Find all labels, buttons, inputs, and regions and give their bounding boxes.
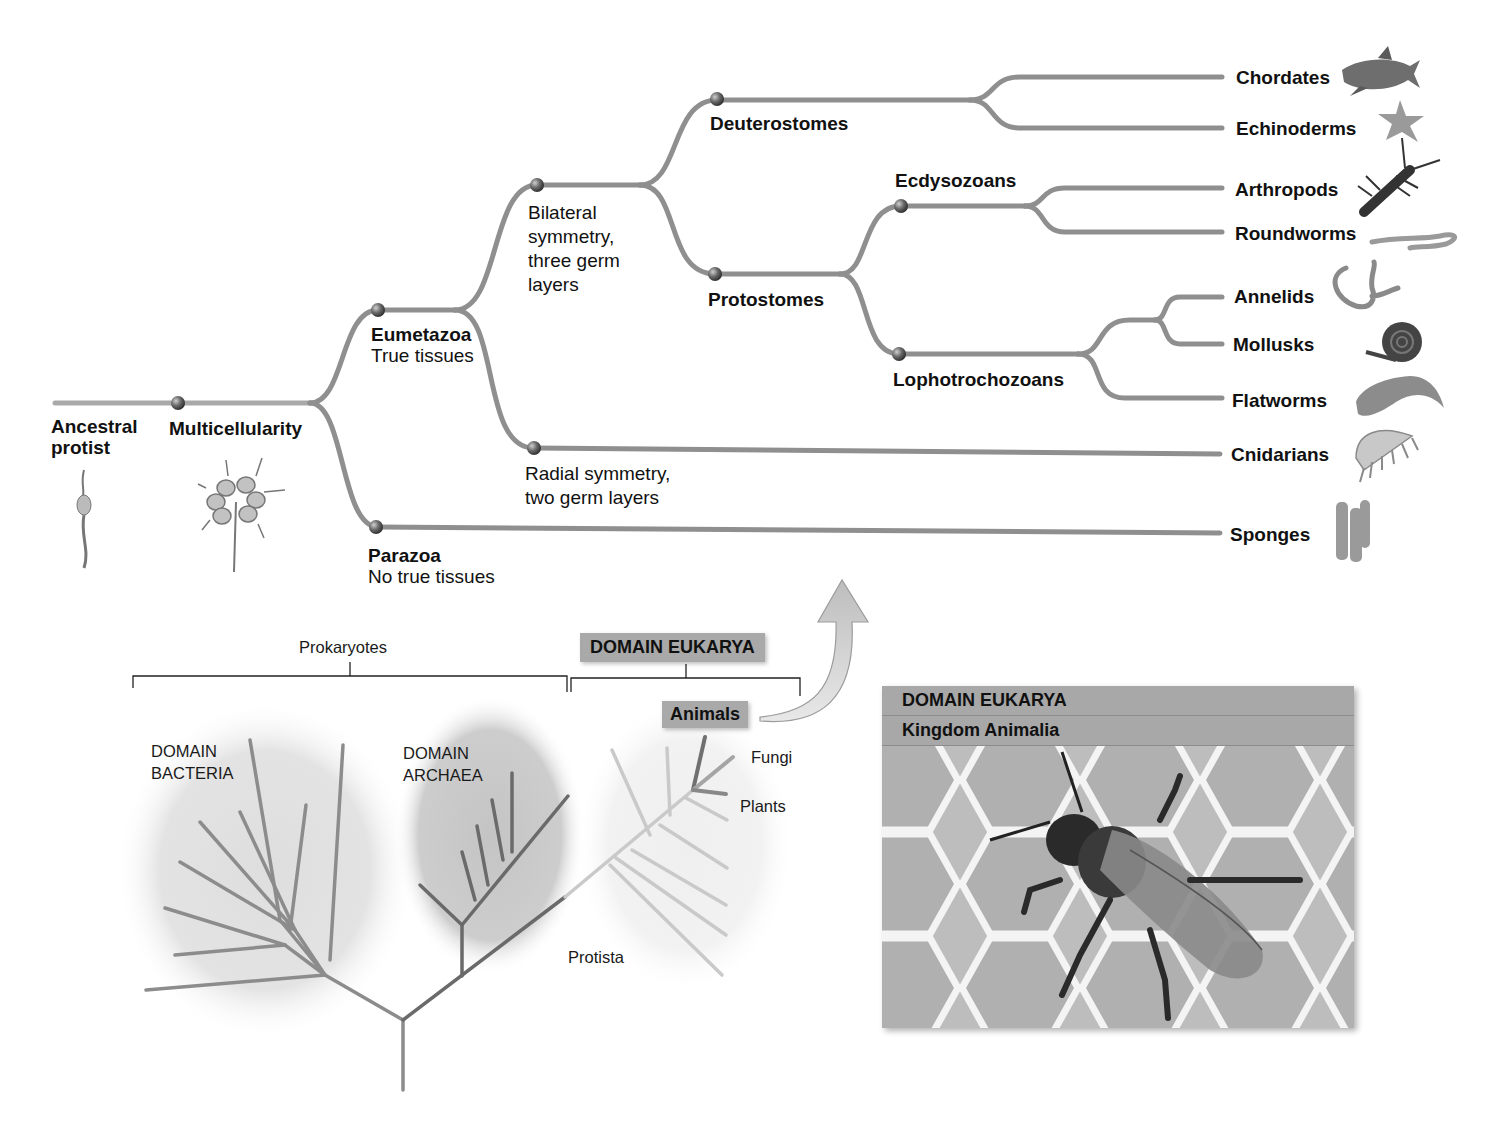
lophotrochozoans-label: Lophotrochozoans	[893, 369, 1064, 390]
node-parazoa	[369, 520, 383, 534]
radiata-line: two germ layers	[525, 486, 670, 510]
domain-eukarya-tag: DOMAIN EUKARYA	[580, 633, 765, 662]
tip-annelids: Annelids	[1234, 286, 1314, 307]
tip-flatworms: Flatworms	[1232, 390, 1327, 411]
tip-echinoderms: Echinoderms	[1236, 118, 1356, 139]
photo-kingdom-label: Kingdom Animalia	[882, 716, 1354, 746]
branch-chordates	[970, 77, 1222, 100]
branch-sponges	[378, 527, 1220, 533]
colonial-protist-icon	[198, 458, 285, 572]
tip-arthropods: Arthropods	[1235, 179, 1338, 200]
branch-deuterostomes	[640, 100, 717, 185]
parazoa-label: Parazoa	[368, 545, 495, 566]
animals-tag: Animals	[662, 701, 748, 728]
eumetazoa-label-group: Eumetazoa True tissues	[371, 324, 474, 367]
earthworm-icon	[1335, 262, 1398, 307]
roundworm-icon	[1372, 235, 1455, 248]
domain-bacteria-line1: DOMAIN	[151, 740, 234, 762]
node-radiata	[527, 441, 541, 455]
zoom-arrow	[760, 580, 868, 722]
branch-flatworms	[1078, 354, 1222, 398]
domain-archaea-label: DOMAIN ARCHAEA	[403, 742, 483, 786]
branch-ecdysozoans	[840, 206, 901, 274]
branch-eumetazoa	[310, 310, 378, 403]
branch-roundworms	[1025, 206, 1222, 232]
bilateria-line: symmetry,	[528, 225, 620, 249]
bilateria-line: three germ	[528, 249, 620, 273]
photo-panel-header: DOMAIN EUKARYA Kingdom Animalia	[882, 686, 1354, 746]
sponge-icon	[1336, 500, 1370, 562]
tip-cnidarians: Cnidarians	[1231, 444, 1329, 465]
parazoa-description: No true tissues	[368, 566, 495, 587]
tip-roundworms: Roundworms	[1235, 223, 1356, 244]
tip-sponges: Sponges	[1230, 524, 1310, 545]
ecdysozoans-label: Ecdysozoans	[895, 170, 1016, 191]
branch-parazoa	[310, 403, 378, 527]
branch-annelid-mollusk	[1078, 320, 1155, 354]
tip-mollusks: Mollusks	[1233, 334, 1314, 355]
bilateria-line: Bilateral	[528, 201, 620, 225]
eumetazoa-description: True tissues	[371, 345, 474, 366]
plants-label: Plants	[740, 797, 786, 815]
parazoa-label-group: Parazoa No true tissues	[368, 545, 495, 588]
ancestral-protist-label: Ancestral protist	[51, 416, 138, 459]
fungi-label: Fungi	[751, 748, 792, 766]
shark-icon	[1342, 46, 1420, 96]
jellyfish-icon	[1356, 431, 1418, 482]
prokaryotes-bracket	[133, 662, 567, 692]
branch-annelids	[1155, 297, 1222, 320]
deuterostomes-label: Deuterostomes	[710, 113, 848, 134]
eukarya-bracket	[571, 664, 800, 696]
node-lophotrochozoans	[892, 347, 906, 361]
snail-icon	[1366, 322, 1422, 362]
prokaryotes-label: Prokaryotes	[299, 638, 387, 656]
bilateria-description: Bilateral symmetry, three germ layers	[528, 201, 620, 297]
eumetazoa-label: Eumetazoa	[371, 324, 474, 345]
flatworm-icon	[1356, 376, 1444, 416]
protista-label: Protista	[568, 948, 624, 966]
node-eumetazoa	[371, 303, 385, 317]
radiata-description: Radial symmetry, two germ layers	[525, 462, 670, 510]
branch-bilateria	[455, 185, 537, 310]
bilateria-line: layers	[528, 273, 620, 297]
node-deuterostomes	[710, 92, 724, 106]
ancestral-protist-line1: Ancestral	[51, 416, 138, 437]
branch-protostomes	[640, 185, 715, 274]
branch-lophotrochozoans	[840, 274, 899, 354]
sea-star-icon	[1378, 100, 1424, 142]
domain-archaea-line2: ARCHAEA	[403, 764, 483, 786]
branch-mollusks	[1155, 320, 1222, 344]
multicellularity-label: Multicellularity	[169, 418, 302, 439]
domain-bacteria-line2: BACTERIA	[151, 762, 234, 784]
node-multicellularity	[171, 396, 185, 410]
phylogeny-canvas	[0, 0, 1493, 1122]
branch-arthropods	[1025, 188, 1222, 206]
archaea-region	[395, 695, 585, 975]
domain-archaea-line1: DOMAIN	[403, 742, 483, 764]
ancestral-protist-line2: protist	[51, 437, 138, 458]
radiata-line: Radial symmetry,	[525, 462, 670, 486]
node-protostomes	[708, 267, 722, 281]
branch-echinoderms	[970, 100, 1222, 128]
tip-chordates: Chordates	[1236, 67, 1330, 88]
domain-bacteria-label: DOMAIN BACTERIA	[151, 740, 234, 784]
branch-cnidarians	[534, 448, 1220, 454]
protostomes-label: Protostomes	[708, 289, 824, 310]
lobster-icon	[1358, 138, 1440, 212]
node-bilateria	[530, 178, 544, 192]
photo-domain-label: DOMAIN EUKARYA	[882, 686, 1354, 716]
choanoflagellate-icon	[77, 470, 91, 568]
node-ecdysozoans	[894, 199, 908, 213]
